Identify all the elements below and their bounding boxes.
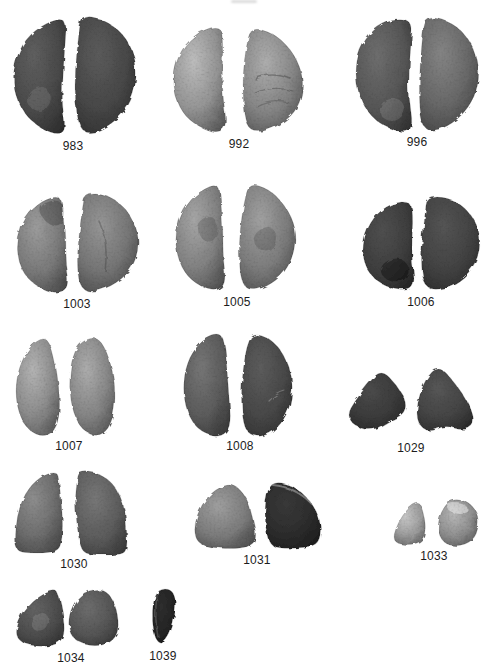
specimen-label: 1006: [407, 296, 435, 308]
artifact-half: [393, 502, 424, 543]
cropped-edge-artifact: [231, 0, 257, 3]
specimen-label: 1034: [57, 652, 85, 664]
artifact-half: [15, 472, 62, 552]
specimen-label: 1029: [397, 442, 425, 454]
artifact-half: [69, 589, 117, 645]
specimen-label: 1030: [60, 558, 88, 570]
artifact-half: [15, 338, 59, 435]
artifact-photo: [190, 478, 324, 552]
artifact-photo: [12, 190, 142, 296]
artifact-half: [12, 18, 65, 132]
artifact-photo: [12, 586, 130, 650]
artifact-photo: [12, 468, 136, 556]
specimen-1003: 1003: [12, 190, 142, 296]
artifact-photo: [12, 334, 126, 438]
artifact-half: [241, 334, 292, 435]
specimen-label: 996: [407, 136, 428, 148]
artifact-half: [194, 484, 255, 547]
specimen-1006: 1006: [358, 194, 484, 294]
artifact-photo: [358, 194, 484, 294]
artifact-photo: [144, 586, 182, 648]
specimen-1030: 1030: [12, 468, 136, 556]
artifact-half: [348, 372, 405, 429]
specimen-1034: 1034: [12, 586, 130, 650]
artifact-half: [264, 482, 320, 548]
specimen-1007: 1007: [12, 334, 126, 438]
specimen-label: 1008: [226, 440, 254, 452]
specimen-label: 1005: [223, 296, 251, 308]
specimen-1033: 1033: [388, 496, 480, 548]
specimen-992: 992: [170, 22, 308, 136]
specimen-label: 1039: [149, 650, 177, 662]
specimen-1039: 1039: [144, 586, 182, 648]
artifact-half: [69, 337, 114, 434]
artifact-photo: [350, 14, 484, 134]
artifact-half: [175, 185, 224, 289]
artifact-half: [74, 16, 135, 132]
artifact-half: [183, 334, 230, 435]
specimen-label: 1031: [243, 554, 271, 566]
artifact-half: [77, 193, 138, 290]
specimen-label: 1003: [63, 298, 91, 310]
specimen-996: 996: [350, 14, 484, 134]
artifact-photo: [176, 330, 304, 438]
specimen-label: 983: [63, 140, 84, 152]
artifact-half: [242, 28, 302, 130]
artifact-photo: [388, 496, 480, 548]
specimen-label: 992: [229, 138, 250, 150]
artifact-photo: [172, 180, 302, 294]
specimen-1029: 1029: [344, 362, 478, 440]
artifact-half: [416, 368, 473, 430]
artifact-half: [173, 26, 225, 130]
figure-plate: 9839929961003100510061007100810291030103…: [0, 0, 495, 669]
artifact-half: [421, 196, 479, 288]
artifact-photo: [170, 22, 308, 136]
artifact-photo: [344, 362, 478, 440]
specimen-983: 983: [8, 12, 138, 138]
specimen-label: 1033: [420, 550, 448, 562]
artifact-photo: [8, 12, 138, 138]
specimen-1005: 1005: [172, 180, 302, 294]
artifact-half: [418, 17, 477, 129]
artifact-half: [75, 471, 127, 554]
specimen-1031: 1031: [190, 478, 324, 552]
specimen-label: 1007: [55, 440, 83, 452]
specimen-1008: 1008: [176, 330, 304, 438]
